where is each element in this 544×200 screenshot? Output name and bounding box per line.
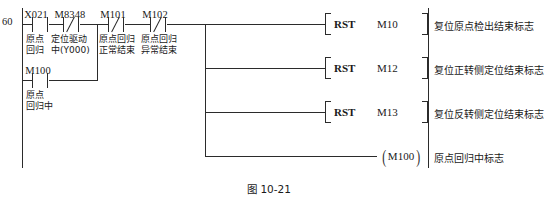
coil-operand: M100 [387,150,415,162]
contact-bar-right [78,17,79,32]
contact-m8348-note-line2: 中(Y000) [51,45,90,56]
contact-m101-note-line1: 原点回归 [99,34,135,45]
contact-bar-left [32,17,33,32]
contact-slash [153,17,162,33]
contact-m102[interactable] [149,17,167,32]
wire-x021-to-m8348 [49,24,63,25]
contact-m102-note-line2: 异常结束 [141,45,177,56]
bracket-left-icon [325,57,331,79]
step-number: 60 [2,16,13,27]
instruction-opcode: RST [331,106,355,118]
contact-bar-right [47,17,48,32]
branch-vertical-right [97,24,98,80]
contact-slash [111,17,120,33]
contact-m8348-note-line1: 定位驱动 [51,34,87,45]
contact-x021-note-line1: 原点 [26,34,44,45]
instruction-block-rst-m12[interactable]: RST M12 [325,57,428,79]
contact-m100-note-line1: 原点 [26,90,44,101]
wire-m102-to-junction [167,24,205,25]
contact-m101[interactable] [107,17,125,32]
bracket-left-icon [325,13,331,35]
coil-paren-left: ( [382,147,386,166]
contact-x021-note-line2: 回归 [26,45,44,56]
coil-m100[interactable]: ( M100 ) [374,145,428,167]
instruction-block-rst-m13[interactable]: RST M13 [325,101,428,123]
wire-rung-3 [205,112,325,113]
wire-m101-to-m102 [125,24,150,25]
rung-comment-2: 复位正转侧定位结束标志 [434,62,544,77]
instruction-operand: M13 [377,106,398,118]
contact-m100[interactable] [31,73,49,88]
wire-rung-1 [205,24,325,25]
contact-m100-note-line2: 回归中 [26,101,53,112]
contact-bar-left [108,17,109,32]
contact-x021[interactable] [31,17,49,32]
wire-m100-to-branch-join [49,80,98,81]
contact-bar-right [165,17,166,32]
contact-m8348[interactable] [62,17,80,32]
rung-comment-3: 复位反转侧定位结束标志 [434,106,544,121]
instruction-opcode: RST [331,62,355,74]
instruction-opcode: RST [331,18,355,30]
contact-bar-right [47,73,48,88]
contact-bar-left [32,73,33,88]
wire-rung-2 [205,68,325,69]
contact-bar-left [150,17,151,32]
comment-separator-rail [428,8,429,168]
instruction-operand: M12 [377,62,398,74]
wire-rung-4 [205,156,377,157]
contact-bar-left [63,17,64,32]
instruction-block-rst-m10[interactable]: RST M10 [325,13,428,35]
instruction-operand: M10 [377,18,398,30]
bracket-left-icon [325,101,331,123]
contact-m101-note-line2: 正常结束 [99,45,135,56]
figure-caption: 图 10-21 [0,181,538,196]
coil-paren-right: ) [416,147,420,166]
wire-m8348-to-m101 [80,24,108,25]
rung-comment-4: 原点回归中标志 [434,150,504,165]
output-distribution-bus [205,24,206,156]
contact-m102-note-line1: 原点回归 [141,34,177,45]
rung-comment-1: 复位原点检出结束标志 [434,18,534,33]
contact-slash [66,17,75,33]
contact-bar-right [123,17,124,32]
